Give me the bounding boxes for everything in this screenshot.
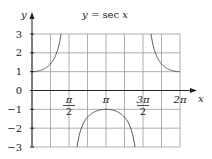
y-axis-arrow-icon xyxy=(30,12,35,19)
x-tick-labels: π2π3π22π xyxy=(63,94,187,117)
x-axis-label: x xyxy=(198,93,204,104)
x-tick-label: 2π xyxy=(173,94,187,105)
y-tick-labels: 3210−1−2−3 xyxy=(7,29,34,153)
y-tick-label: 2 xyxy=(16,47,22,58)
y-tick-label: −1 xyxy=(7,104,22,115)
x-axis-arrow-icon xyxy=(190,88,197,93)
chart-title: y = sec x xyxy=(81,9,128,20)
x-tick-label-denominator: 2 xyxy=(140,106,146,117)
y-tick-label: 3 xyxy=(16,29,22,40)
x-tick-label-denominator: 2 xyxy=(66,106,72,117)
y-tick-label: 0 xyxy=(16,85,22,96)
axes xyxy=(30,12,198,147)
x-tick-label-numerator: π xyxy=(65,94,73,105)
x-tick-label-numerator: 3π xyxy=(137,94,150,105)
y-tick-label: 1 xyxy=(16,66,22,77)
y-tick-label: −3 xyxy=(7,142,22,153)
x-tick-label: π xyxy=(102,94,110,105)
sec-chart: 3210−1−2−3 π2π3π22π x y y = sec x xyxy=(0,0,212,159)
y-axis-label: y xyxy=(20,9,27,20)
y-tick-label: −2 xyxy=(7,123,22,134)
